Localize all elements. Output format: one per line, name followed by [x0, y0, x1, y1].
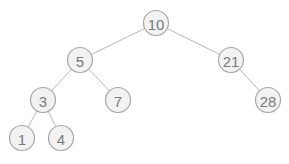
- tree-node-4: 4: [49, 126, 74, 151]
- tree-node-3: 3: [31, 88, 56, 113]
- binary-tree-diagram: 10 5 21 3 7 28 1 4: [0, 0, 289, 164]
- tree-node-28: 28: [256, 88, 281, 113]
- tree-node-1: 1: [10, 126, 35, 151]
- tree-nodes: 10 5 21 3 7 28 1 4: [10, 11, 281, 151]
- tree-node-5: 5: [68, 48, 93, 73]
- svg-text:1: 1: [18, 131, 26, 148]
- svg-text:7: 7: [114, 93, 122, 110]
- tree-node-7: 7: [106, 88, 131, 113]
- tree-node-21: 21: [219, 48, 244, 73]
- svg-text:5: 5: [76, 53, 84, 70]
- svg-text:10: 10: [148, 16, 165, 33]
- tree-node-10: 10: [144, 11, 169, 36]
- svg-text:21: 21: [223, 53, 240, 70]
- svg-text:28: 28: [260, 93, 277, 110]
- tree-edges: [22, 23, 268, 138]
- svg-text:4: 4: [57, 131, 65, 148]
- svg-text:3: 3: [39, 93, 47, 110]
